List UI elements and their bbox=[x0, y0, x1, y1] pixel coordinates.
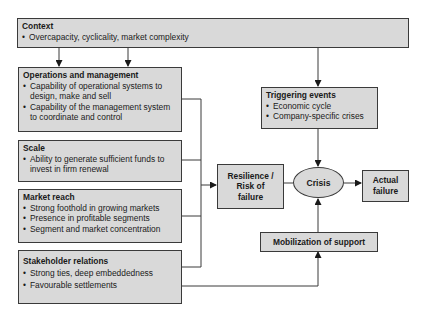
triggering-item: Economic cycle bbox=[266, 101, 373, 112]
scale-box: Scale Ability to generate sufficient fun… bbox=[18, 140, 182, 182]
actual-failure-label-line: failure bbox=[373, 186, 398, 197]
scale-title: Scale bbox=[23, 143, 177, 154]
context-box: Context Overcapacity, cyclicality, marke… bbox=[17, 18, 409, 48]
stakeholder-box: Stakeholder relations Strong ties, deep … bbox=[18, 250, 182, 304]
context-item: Overcapacity, cyclicality, market comple… bbox=[22, 32, 404, 43]
stakeholder-item: Strong ties, deep embeddedness bbox=[23, 267, 177, 279]
resilience-label-line: Resilience / bbox=[227, 171, 273, 182]
market-reach-title: Market reach bbox=[23, 192, 177, 203]
context-title: Context bbox=[22, 21, 404, 32]
crisis-node: Crisis bbox=[293, 167, 344, 198]
triggering-title: Triggering events bbox=[266, 90, 373, 101]
stakeholder-item: Favourable settlements bbox=[23, 279, 177, 291]
stakeholder-title: Stakeholder relations bbox=[23, 256, 177, 267]
operations-item: Capability of operational systems to des… bbox=[23, 81, 177, 102]
triggering-item: Company-specific crises bbox=[266, 111, 373, 122]
mobilization-label: Mobilization of support bbox=[273, 237, 365, 248]
resilience-label-line: Risk of bbox=[237, 181, 265, 192]
scale-item: Ability to generate sufficient funds to … bbox=[23, 154, 177, 175]
triggering-events-box: Triggering events Economic cycle Company… bbox=[261, 87, 378, 129]
resilience-label-line: failure bbox=[238, 192, 263, 203]
operations-box: Operations and management Capability of … bbox=[18, 67, 182, 132]
operations-title: Operations and management bbox=[23, 70, 177, 81]
actual-failure-box: Actual failure bbox=[362, 170, 409, 202]
market-reach-item: Strong foothold in growing markets bbox=[23, 203, 177, 214]
market-reach-item: Presence in profitable segments bbox=[23, 213, 177, 224]
mobilization-box: Mobilization of support bbox=[260, 232, 378, 252]
market-reach-box: Market reach Strong foothold in growing … bbox=[18, 189, 182, 243]
actual-failure-label-line: Actual bbox=[373, 175, 399, 186]
crisis-label: Crisis bbox=[307, 178, 331, 188]
operations-item: Capability of the management system to c… bbox=[23, 102, 177, 123]
resilience-box: Resilience / Risk of failure bbox=[217, 164, 284, 209]
market-reach-item: Segment and market concentration bbox=[23, 224, 177, 235]
